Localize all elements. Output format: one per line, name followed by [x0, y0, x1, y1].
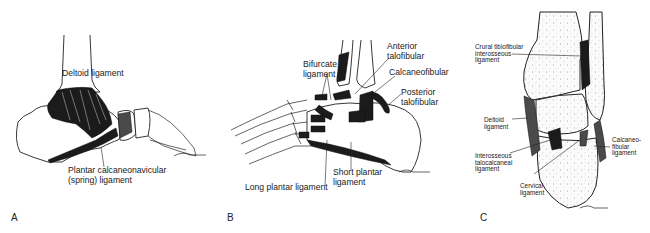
lateral-ankle-illustration — [215, 0, 445, 233]
label-interosseous-talocalcaneal-ligament: Interosseous talocalcaneal ligament — [475, 153, 512, 173]
panel-b-lateral-view: Bifurcate ligament Anterior talofibular … — [215, 0, 445, 233]
label-calcaneofibular-ligament: Calcaneo- fibular ligament — [612, 137, 641, 157]
coronal-ankle-illustration — [440, 0, 650, 233]
label-short-plantar-ligament: Short plantar ligament — [333, 168, 382, 187]
medial-ankle-illustration — [0, 0, 215, 233]
panel-letter-a: A — [11, 212, 18, 223]
panel-letter-c: C — [480, 212, 487, 223]
label-crural-tibiofibular-interosseous-ligament: Crural tibiofibular interosseous ligamen… — [475, 44, 523, 64]
label-long-plantar-ligament: Long plantar ligament — [245, 183, 328, 193]
label-anterior-talofibular: Anterior talofibular — [387, 42, 424, 61]
label-deltoid-ligament-c: Deltoid ligament — [484, 117, 508, 130]
label-cervical-ligament: Cervical ligament — [520, 183, 544, 196]
label-deltoid-ligament: Deltoid ligament — [62, 69, 124, 79]
panel-c-coronal-section: Crural tibiofibular interosseous ligamen… — [440, 0, 650, 233]
label-plantar-calcaneonavicular-ligament: Plantar calcaneonavicular (spring) ligam… — [68, 166, 166, 185]
panel-a-medial-view: Deltoid ligament Plantar calcaneonavicul… — [0, 0, 215, 233]
label-bifurcate-ligament: Bifurcate ligament — [303, 60, 337, 79]
panel-letter-b: B — [227, 212, 234, 223]
label-posterior-talofibular: Posterior talofibular — [401, 88, 438, 107]
